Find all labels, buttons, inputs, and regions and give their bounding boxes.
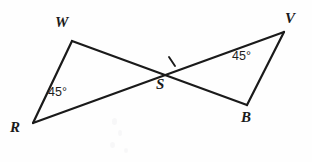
vertex-label-R: R [10, 120, 20, 135]
angle-measure-V: 45° [232, 50, 251, 63]
geometry-figure: W V R B S 45° 45° [0, 0, 312, 162]
tick-segment-S-V [169, 57, 175, 66]
vertex-label-B: B [241, 110, 251, 125]
segment-W-S-B [72, 41, 247, 105]
vertex-label-S: S [156, 77, 164, 92]
vertex-label-W: W [55, 15, 68, 30]
angle-measure-R: 45° [48, 86, 67, 99]
vertex-label-V: V [285, 11, 295, 26]
